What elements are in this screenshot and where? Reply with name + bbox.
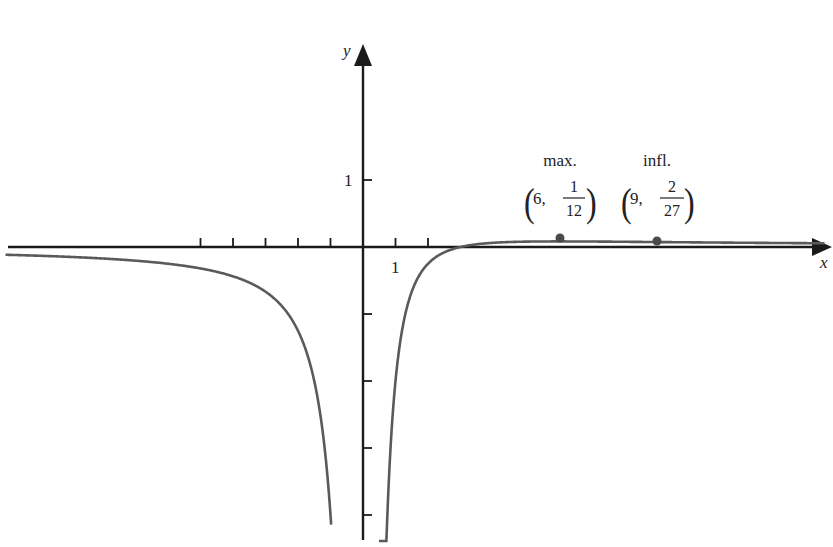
inflection-annotation: infl. ( 9, 2 27 ) bbox=[621, 151, 695, 225]
curve-right-branch bbox=[379, 241, 825, 541]
infl-denominator: 27 bbox=[664, 202, 680, 219]
inflection-point bbox=[653, 237, 662, 246]
curve-left-branch bbox=[6, 255, 332, 525]
x-tick-label-1: 1 bbox=[391, 258, 400, 277]
y-axis-arrow-icon bbox=[354, 44, 372, 66]
max-close-paren: ) bbox=[586, 181, 597, 225]
infl-x-value: 9, bbox=[630, 189, 643, 208]
max-numerator: 1 bbox=[570, 178, 578, 195]
y-axis-ticks bbox=[363, 180, 372, 515]
x-axis-ticks bbox=[201, 238, 429, 247]
infl-numerator: 2 bbox=[668, 178, 676, 195]
max-annotation: max. ( 6, 1 12 ) bbox=[524, 151, 597, 225]
y-axis-label: y bbox=[341, 41, 351, 60]
max-x-value: 6, bbox=[533, 189, 546, 208]
infl-close-paren: ) bbox=[684, 181, 695, 225]
y-axis: y 1 bbox=[341, 41, 372, 540]
y-tick-label-1: 1 bbox=[344, 171, 353, 190]
x-axis-label: x bbox=[819, 253, 828, 272]
max-title: max. bbox=[543, 151, 577, 170]
infl-title: infl. bbox=[643, 151, 671, 170]
function-graph: x 1 y 1 max. ( 6, 1 12 ) infl. ( 9, 2 27… bbox=[0, 0, 833, 547]
x-axis: x 1 bbox=[8, 238, 832, 277]
max-denominator: 12 bbox=[566, 202, 582, 219]
max-point bbox=[556, 234, 565, 243]
